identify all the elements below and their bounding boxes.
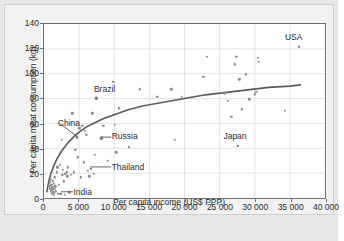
x-tick-label: 35 000 (271, 203, 311, 212)
y-tick-label: 120 (13, 44, 39, 53)
y-tick-mark (40, 73, 43, 74)
x-tick-label: 15 000 (129, 203, 169, 212)
y-tick-mark (40, 98, 43, 99)
y-tick-mark (40, 174, 43, 175)
y-tick-label: 100 (13, 69, 39, 78)
y-tick-mark (40, 23, 43, 24)
y-tick-label: 80 (13, 94, 39, 103)
x-tick-mark (78, 199, 79, 202)
x-tick-label: 25 000 (200, 203, 240, 212)
plot-area (43, 23, 326, 199)
x-tick-label: 5 000 (58, 203, 98, 212)
x-tick-label: 0 (23, 203, 63, 212)
y-tick-label: 20 (13, 170, 39, 179)
x-tick-mark (114, 199, 115, 202)
y-tick-mark (40, 149, 43, 150)
x-tick-label: 40 000 (306, 203, 344, 212)
x-tick-label: 20 000 (165, 203, 205, 212)
point-label-brazil: Brazil (94, 85, 115, 94)
x-tick-label: 10 000 (94, 203, 134, 212)
point-label-japan: Japan (223, 132, 246, 141)
y-tick-label: 140 (13, 19, 39, 28)
x-tick-mark (149, 199, 150, 202)
y-tick-label: 40 (13, 145, 39, 154)
chart-canvas: Per capita meat consumption (kg) Per cap… (4, 4, 334, 215)
point-label-thailand: Thailand (112, 163, 145, 172)
x-tick-mark (326, 199, 327, 202)
y-tick-mark (40, 48, 43, 49)
callout-leader-lines (44, 24, 325, 198)
point-label-russia: Russia (112, 132, 138, 141)
x-tick-mark (220, 199, 221, 202)
y-axis-title: Per capita meat consumption (kg) (28, 46, 38, 173)
y-tick-label: 60 (13, 120, 39, 129)
point-label-india: India (73, 188, 91, 197)
x-tick-label: 30 000 (235, 203, 275, 212)
x-tick-mark (43, 199, 44, 202)
y-tick-mark (40, 124, 43, 125)
x-tick-mark (291, 199, 292, 202)
point-label-usa: USA (285, 33, 302, 42)
x-tick-mark (185, 199, 186, 202)
point-label-china: China (58, 119, 80, 128)
x-tick-mark (255, 199, 256, 202)
